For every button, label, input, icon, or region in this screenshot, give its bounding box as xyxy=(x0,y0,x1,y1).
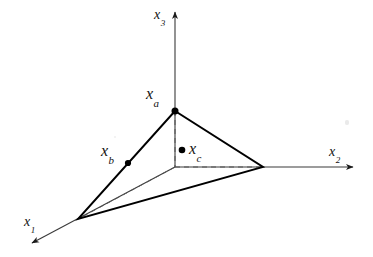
figure-canvas: x3 x2 x1 xa xb xc xyxy=(0,0,373,257)
point-label-xb: xb xyxy=(101,143,114,162)
point-label-xa: xa xyxy=(146,86,159,105)
point-marker-xc xyxy=(179,147,186,154)
point-label-xb-base: x xyxy=(101,142,108,159)
axis-label-x2-base: x xyxy=(329,144,335,159)
point-label-xa-base: x xyxy=(146,85,153,102)
point-label-xc: xc xyxy=(189,141,201,160)
scan-artifact-speck xyxy=(345,120,349,125)
axis-line-x1 xyxy=(32,167,175,243)
point-label-xa-subscript: a xyxy=(154,97,160,109)
triangle-simplex xyxy=(78,111,263,219)
axis-label-x3-subscript: 3 xyxy=(161,18,166,28)
point-label-xb-subscript: b xyxy=(109,154,115,166)
scan-artifact-speck xyxy=(114,136,116,138)
hidden-edges-group xyxy=(78,111,263,219)
point-label-xc-subscript: c xyxy=(197,152,202,164)
axis-label-x3: x3 xyxy=(154,6,165,25)
axis-label-x1-base: x xyxy=(24,214,30,229)
point-marker-xa xyxy=(172,108,179,115)
axis-group xyxy=(32,12,353,243)
axis-label-x1: x1 xyxy=(24,213,35,232)
point-marker-xb xyxy=(125,160,131,166)
axis-label-x1-subscript: 1 xyxy=(31,225,36,235)
diagram-svg xyxy=(0,0,373,257)
axis-label-x3-base: x xyxy=(154,7,160,22)
point-label-xc-base: x xyxy=(189,140,196,157)
axis-label-x2-subscript: 2 xyxy=(336,155,341,165)
simplex-outline xyxy=(78,111,263,219)
axis-label-x2: x2 xyxy=(329,143,340,162)
